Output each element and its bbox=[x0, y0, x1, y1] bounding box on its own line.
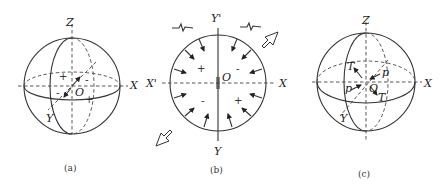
figure-canvas: Z X Y O + - - + (a) bbox=[0, 0, 448, 186]
x-prime-label: X' bbox=[145, 77, 157, 90]
x-axis-label: X bbox=[278, 77, 288, 90]
caption-a: (a) bbox=[64, 163, 76, 173]
origin-label: O bbox=[75, 86, 84, 99]
panel-a: Z X Y O + - - + (a) bbox=[18, 16, 139, 173]
sign-minus: - bbox=[85, 74, 89, 85]
sign-minus: - bbox=[201, 95, 205, 106]
p-label: p bbox=[382, 66, 389, 79]
hollow-arrow-icon bbox=[156, 130, 172, 146]
caption-c: (c) bbox=[358, 169, 370, 179]
t-label: T bbox=[378, 91, 387, 104]
seismic-wave-icon bbox=[172, 24, 193, 31]
z-axis-label: Z bbox=[65, 16, 74, 29]
panel-b: Y' X' X Y O + - - + (b) bbox=[145, 12, 288, 175]
t-axis-arrow bbox=[354, 68, 362, 78]
shear-arrow-up bbox=[72, 77, 80, 86]
origin-label: O bbox=[222, 71, 231, 84]
caption-b: (b) bbox=[210, 165, 223, 175]
x-axis-label: X bbox=[423, 77, 433, 90]
sign-plus: + bbox=[59, 71, 67, 82]
sign-plus: + bbox=[197, 63, 205, 74]
seismic-wave-icon bbox=[240, 23, 261, 30]
p-label: p bbox=[345, 82, 352, 95]
sign-minus: - bbox=[236, 63, 240, 74]
x-axis-label: X bbox=[129, 79, 139, 92]
panel-c: Z X Y O T p p T (c) bbox=[312, 14, 433, 179]
y-axis-label: Y bbox=[340, 112, 349, 125]
z-axis-label: Z bbox=[361, 14, 370, 27]
t-label: T bbox=[347, 60, 356, 73]
p-axis-arrow bbox=[351, 85, 361, 90]
sign-minus: - bbox=[56, 87, 60, 98]
sign-plus: + bbox=[234, 95, 242, 106]
y-prime-label: Y' bbox=[211, 12, 221, 25]
hollow-arrow-icon bbox=[262, 32, 278, 48]
origin-label: O bbox=[369, 82, 378, 95]
sign-plus: + bbox=[85, 94, 93, 105]
y-axis-label: Y bbox=[214, 145, 223, 158]
